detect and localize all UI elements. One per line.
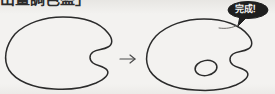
step-2-palette-with-hole [147, 19, 252, 90]
palette-outline-path-left [6, 17, 112, 89]
palette-outline-path-right [147, 19, 252, 90]
tutorial-illustration-page: 出畫調色盤」 完成！ [0, 0, 275, 94]
thumb-hole [194, 59, 218, 78]
step-1-palette-outline [6, 17, 112, 89]
completion-badge-label: 完成！ [228, 2, 268, 17]
completion-badge: 完成！ [228, 2, 272, 26]
step-arrow [120, 55, 135, 63]
